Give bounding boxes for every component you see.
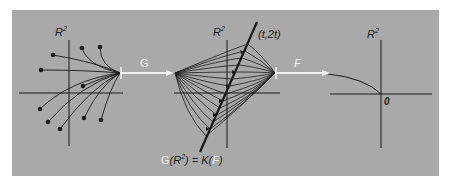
t-2t-line xyxy=(200,22,257,152)
panel1-axis-label: R2 xyxy=(55,25,67,38)
caption-G: G xyxy=(161,154,170,166)
caption-part3: ) xyxy=(219,154,223,166)
caption-F: F xyxy=(212,154,219,166)
panel2-axis-label: R2 xyxy=(213,25,225,38)
axis-label-R: R xyxy=(55,26,63,38)
panel3-curve xyxy=(328,74,381,94)
panel2-curves xyxy=(175,44,275,136)
arrow-G-label: G xyxy=(140,57,149,69)
caption-part2: ) = K( xyxy=(185,154,212,166)
panel1-curves xyxy=(40,47,120,129)
axis-label-sup: 2 xyxy=(63,25,67,32)
arrow-F-label: F xyxy=(294,57,301,69)
panel1-axes xyxy=(19,40,123,146)
panel3-axis-label: R2 xyxy=(367,27,379,40)
axis-label-sup: 2 xyxy=(221,25,225,32)
caption-part1: (R xyxy=(170,154,182,166)
t-2t-label: (t,2t) xyxy=(258,28,281,40)
axis-label-R: R xyxy=(213,26,221,38)
arrow-F xyxy=(276,67,330,79)
axis-label-R: R xyxy=(367,28,375,40)
origin-label: 0 xyxy=(384,96,390,107)
caption: G(R2) = K(F) xyxy=(161,153,223,166)
axis-label-sup: 2 xyxy=(375,27,379,34)
